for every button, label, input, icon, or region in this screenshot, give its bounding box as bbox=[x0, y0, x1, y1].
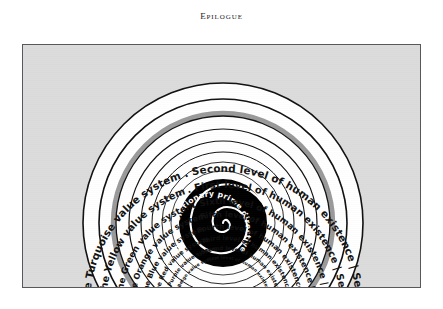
spiral-dynamics-diagram: The evolutionary prime directive The Tur… bbox=[23, 45, 421, 288]
figure-frame: The evolutionary prime directive The Tur… bbox=[22, 44, 421, 288]
book-page: Epilogue bbox=[0, 0, 443, 309]
page-title: Epilogue bbox=[0, 8, 443, 23]
